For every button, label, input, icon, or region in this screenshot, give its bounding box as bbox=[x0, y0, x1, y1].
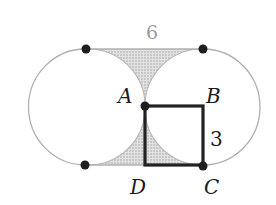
label-a: A bbox=[116, 84, 132, 108]
dot-a bbox=[141, 102, 150, 111]
figure-svg: 6 A B 3 D C bbox=[0, 0, 276, 205]
label-top-length: 6 bbox=[146, 21, 158, 43]
label-d: D bbox=[129, 175, 146, 199]
geometry-figure: 6 A B 3 D C bbox=[0, 0, 276, 205]
dot-c bbox=[199, 162, 208, 171]
dot-top-left bbox=[82, 45, 91, 54]
dot-bottom-left bbox=[81, 161, 90, 170]
label-c: C bbox=[204, 175, 219, 199]
dot-top-right bbox=[199, 45, 208, 54]
label-b: B bbox=[205, 84, 221, 108]
label-side-length: 3 bbox=[210, 127, 223, 151]
left-semicircle bbox=[28, 49, 86, 165]
